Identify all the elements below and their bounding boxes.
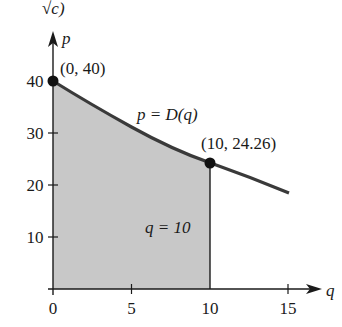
q10-label: q = 10: [145, 218, 191, 237]
y-axis-label: p: [61, 29, 71, 48]
x-tick-5: 5: [127, 299, 136, 318]
point-10-24: [205, 158, 216, 169]
header-fragment: √c): [42, 0, 65, 18]
y-tick-40: 40: [27, 72, 44, 91]
curve-label: p = D(q): [136, 105, 198, 124]
point-b-label: (10, 24.26): [201, 134, 276, 153]
x-tick-0: 0: [49, 299, 58, 318]
y-tick-20: 20: [27, 176, 44, 195]
y-tick-30: 30: [27, 124, 44, 143]
chart: √c) 10 20 30 40 0 5 10 15 p q (0, 40) (1…: [0, 0, 342, 327]
x-tick-15: 15: [280, 299, 297, 318]
y-tick-10: 10: [27, 228, 44, 247]
x-axis-label: q: [326, 281, 335, 300]
point-0-40: [48, 76, 59, 87]
point-a-label: (0, 40): [60, 59, 105, 78]
x-tick-10: 10: [202, 299, 219, 318]
